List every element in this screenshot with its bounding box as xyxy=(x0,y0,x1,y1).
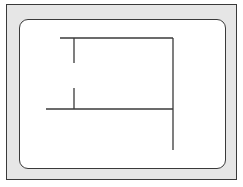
line-drawing xyxy=(0,0,243,187)
